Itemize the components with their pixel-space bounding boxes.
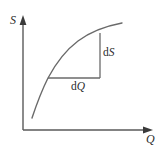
- y-axis-label: S: [10, 14, 16, 26]
- ds-variable: S: [109, 46, 115, 58]
- figure-container: S Q dS dQ: [0, 0, 168, 155]
- x-axis-label-text: Q: [146, 132, 155, 146]
- y-axis-arrow-icon: [20, 15, 27, 25]
- ds-annotation: dS: [103, 47, 115, 59]
- y-axis-label-text: S: [10, 13, 16, 27]
- dq-variable: Q: [77, 80, 85, 92]
- dq-annotation: dQ: [71, 81, 85, 93]
- plot-canvas: [0, 0, 168, 155]
- entropy-curve: [32, 23, 122, 118]
- x-axis-label: Q: [146, 133, 155, 145]
